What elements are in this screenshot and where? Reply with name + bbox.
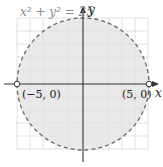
y-axis-label: y	[88, 3, 95, 17]
point-label-left: (−5, 0)	[22, 88, 61, 101]
equation-label: x² + y² = 25	[20, 5, 94, 19]
point-label-right: (5, 0)	[122, 88, 152, 101]
open-point-right	[146, 81, 152, 87]
open-point-left	[14, 81, 20, 87]
graph-canvas	[0, 0, 163, 167]
x-axis-label: x	[155, 86, 162, 100]
